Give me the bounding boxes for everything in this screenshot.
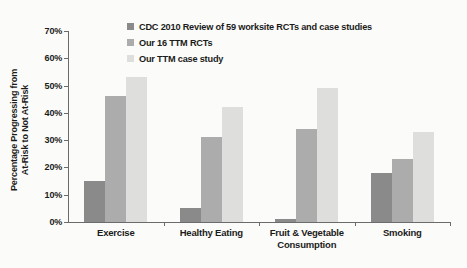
bar (371, 173, 392, 222)
y-axis-tick-label: 40% (30, 108, 62, 118)
bar (275, 219, 296, 222)
y-axis-tick-label: 10% (30, 190, 62, 200)
y-axis-tick (64, 86, 68, 87)
y-axis-tick (64, 195, 68, 196)
y-axis-tick (64, 167, 68, 168)
x-axis-category-label-line: Consumption (259, 239, 355, 251)
y-axis-tick-label: 70% (30, 26, 62, 36)
bar (180, 208, 201, 222)
bar (126, 77, 147, 222)
bar (296, 129, 317, 222)
y-axis-tick (64, 140, 68, 141)
y-axis-tick (64, 222, 68, 223)
bar (201, 137, 222, 222)
y-axis-tick-label: 30% (30, 135, 62, 145)
x-axis-category-label: Exercise (68, 227, 164, 239)
bar (413, 132, 434, 222)
x-axis-tick (259, 222, 260, 226)
bar (105, 96, 126, 222)
y-axis-tick-label: 60% (30, 53, 62, 63)
plot-area: 0%10%20%30%40%50%60%70%ExerciseHealthy E… (0, 0, 467, 268)
x-axis-tick (164, 222, 165, 226)
bar (84, 181, 105, 222)
bar-chart-figure: Percentage Progressing from At-Risk to N… (0, 0, 467, 268)
y-axis-line (68, 31, 69, 222)
y-axis-tick (64, 113, 68, 114)
x-axis-category-label-line: Smoking (355, 227, 451, 239)
x-axis-category-label-line: Healthy Eating (164, 227, 260, 239)
y-axis-tick (64, 31, 68, 32)
y-axis-tick-label: 50% (30, 81, 62, 91)
y-axis-tick (64, 58, 68, 59)
x-axis-category-label: Healthy Eating (164, 227, 260, 239)
bar (317, 88, 338, 222)
x-axis-category-label-line: Fruit & Vegetable (259, 227, 355, 239)
x-axis-category-label: Fruit & VegetableConsumption (259, 227, 355, 251)
x-axis-category-label-line: Exercise (68, 227, 164, 239)
y-axis-tick-label: 0% (30, 217, 62, 227)
y-axis-tick-label: 20% (30, 162, 62, 172)
x-axis-tick (355, 222, 356, 226)
x-axis-category-label: Smoking (355, 227, 451, 239)
bar (222, 107, 243, 222)
x-axis-tick (450, 222, 451, 226)
bar (392, 159, 413, 222)
